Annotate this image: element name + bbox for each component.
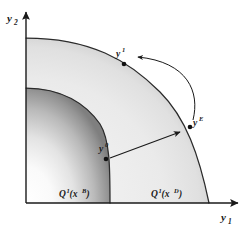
y1-axis-label: y 1 (219, 211, 232, 226)
outer-output-set-label-base: Q (151, 189, 158, 199)
y2-axis-label-subscript: 2 (13, 18, 18, 27)
y1-axis-label-base: y (219, 211, 226, 223)
point-yE-marker (188, 125, 193, 130)
point-y0-label-base: y (98, 144, 104, 154)
point-yE-label-superscript: E (198, 115, 204, 122)
point-y1-label-superscript: 1 (122, 46, 125, 53)
y2-axis-label-base: y (5, 12, 12, 24)
figure-root: y 2 y 1 y 1 y E y 0 Q 1 (x B ) Q (0, 0, 248, 227)
inner-output-set-label-mid: (x (70, 189, 78, 200)
point-y1-marker (122, 62, 127, 67)
outer-output-set-label-close: ) (178, 189, 182, 200)
point-y1-label-base: y (115, 49, 121, 59)
inner-output-set-label-close: ) (86, 189, 90, 200)
outer-output-set-label-mid: (x (162, 189, 170, 200)
point-y0-marker (104, 157, 109, 162)
y1-axis-label-subscript: 1 (228, 217, 232, 226)
point-yE-label-base: y (192, 118, 198, 128)
point-y1-label: y 1 (115, 46, 125, 59)
inner-output-set-label-base: Q (59, 189, 66, 199)
y2-axis-label: y 2 (5, 12, 18, 27)
diagram-canvas: y 2 y 1 y 1 y E y 0 Q 1 (x B ) Q (0, 0, 248, 227)
